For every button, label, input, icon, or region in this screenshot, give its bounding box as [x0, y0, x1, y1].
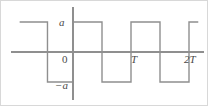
square-wave-figure: a 0 −a T 2T [0, 0, 208, 106]
y-label-positive-amplitude: a [59, 17, 65, 28]
y-label-negative-amplitude: −a [55, 80, 68, 91]
origin-label: 0 [62, 54, 68, 65]
x-label-two-periods: 2T [184, 54, 196, 65]
x-label-period: T [131, 54, 137, 65]
plot-canvas [1, 1, 208, 106]
